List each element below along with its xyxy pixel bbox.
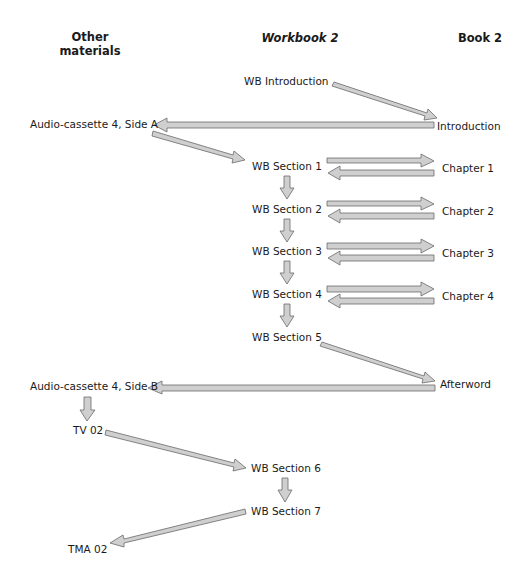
arrow-audio-a-to-wbs1 [152,131,245,163]
node-chapter-1: Chapter 1 [442,162,494,175]
node-tv-02: TV 02 [73,424,103,437]
node-chapter-3: Chapter 3 [442,247,494,260]
node-wb-section-1: WB Section 1 [252,160,322,173]
arrow-audio-b-to-tv02 [80,397,95,421]
arrow-wbs1-to-ch1 [327,154,434,167]
node-wb-section-5: WB Section 5 [252,331,322,344]
node-tma-02: TMA 02 [68,543,107,556]
arrow-wbs4-to-wbs5 [280,304,294,327]
arrow-wbs1-to-wbs2 [280,176,294,199]
arrow-introduction-to-audio-a [154,118,434,132]
arrow-wbs3-to-wbs4 [280,261,294,284]
node-wb-section-4: WB Section 4 [252,288,322,301]
node-chapter-4: Chapter 4 [442,290,494,303]
arrow-ch2-to-wbs2 [328,209,434,223]
node-chapter-2: Chapter 2 [442,205,494,218]
node-wb-section-6: WB Section 6 [251,462,321,475]
node-wb-section-7: WB Section 7 [251,505,321,518]
node-wb-section-3: WB Section 3 [252,245,322,258]
arrow-wbs2-to-wbs3 [280,219,294,242]
node-audio-cassette-side-b: Audio-cassette 4, Side B [30,380,158,393]
arrow-wbs5-to-afterword [320,342,435,383]
arrow-wbs2-to-ch2 [327,197,434,210]
arrow-wbs4-to-ch4 [327,282,434,296]
node-afterword: Afterword [440,378,491,391]
node-audio-cassette-side-a: Audio-cassette 4, Side A [30,118,158,131]
arrow-afterword-to-audio-b [148,381,435,394]
node-wb-section-2: WB Section 2 [252,203,322,216]
arrow-wbs7-to-tma02 [110,509,246,547]
arrow-ch4-to-wbs4 [328,294,434,308]
arrow-ch3-to-wbs3 [328,251,434,265]
node-wb-introduction: WB Introduction [244,75,329,88]
arrow-tv02-to-wbs6 [105,430,246,471]
node-introduction: Introduction [437,120,501,133]
arrow-wbintro-to-introduction [332,82,437,120]
arrow-ch1-to-wbs1 [328,166,434,180]
arrow-wbs3-to-ch3 [327,239,434,253]
arrow-wbs6-to-wbs7 [278,478,292,502]
